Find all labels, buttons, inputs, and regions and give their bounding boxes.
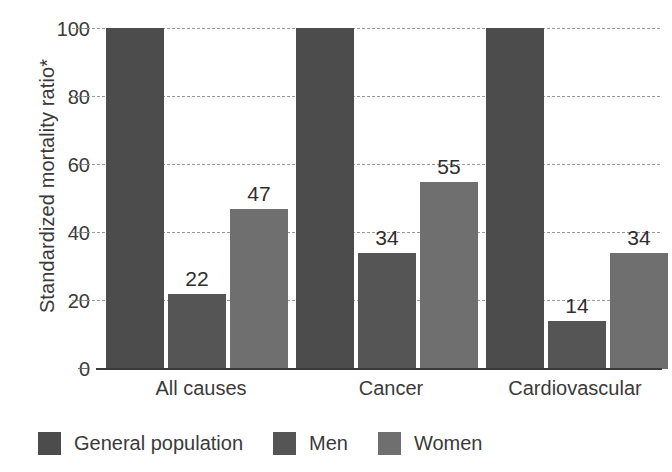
bar-cancer-general-population [296, 28, 354, 369]
bar-value-cancer-men: 34 [358, 227, 416, 248]
bar-value-all-causes-men: 22 [168, 268, 226, 289]
bar-cancer-women [420, 182, 478, 369]
bar-all-causes-women [230, 209, 288, 369]
y-tick-label-60: 60 [34, 155, 90, 175]
legend-item-women: Women [378, 432, 513, 455]
legend-label-general-population: General population [74, 433, 243, 453]
y-tick-label-40: 40 [34, 223, 90, 243]
bar-value-cardiovascular-women: 34 [610, 227, 668, 248]
plot-area: 22 47 34 55 14 34 [98, 28, 660, 369]
legend-item-general-population: General population [38, 432, 273, 455]
x-axis-baseline [96, 368, 662, 370]
bar-cardiovascular-women [610, 253, 668, 369]
legend-label-men: Men [309, 433, 348, 453]
y-tick-label-20: 20 [34, 291, 90, 311]
y-tick-dash-0 [78, 368, 88, 369]
y-tick-label-100: 100 [34, 19, 90, 39]
legend-swatch-women-icon [378, 432, 401, 455]
legend-item-men: Men [273, 432, 378, 455]
chart-legend: General population Men Women [38, 428, 512, 458]
x-category-label-all-causes: All causes [106, 378, 296, 398]
y-tick-label-0: 0 [34, 359, 90, 379]
bar-all-causes-general-population [106, 28, 164, 369]
bar-value-cardiovascular-men: 14 [548, 295, 606, 316]
y-tick-label-80: 80 [34, 87, 90, 107]
bar-all-causes-men [168, 294, 226, 369]
legend-swatch-general-population-icon [38, 432, 61, 455]
bar-value-cancer-women: 55 [420, 156, 478, 177]
bar-cancer-men [358, 253, 416, 369]
x-category-label-cardiovascular: Cardiovascular [480, 378, 670, 398]
legend-label-women: Women [414, 433, 483, 453]
y-axis-title: Standardized mortality ratio* [30, 0, 64, 372]
legend-swatch-men-icon [273, 432, 296, 455]
bar-value-all-causes-women: 47 [230, 183, 288, 204]
bar-cardiovascular-men [548, 321, 606, 369]
bar-chart-figure: Standardized mortality ratio* 100 80 60 … [0, 0, 672, 472]
x-category-label-cancer: Cancer [296, 378, 486, 398]
bar-cardiovascular-general-population [486, 28, 544, 369]
